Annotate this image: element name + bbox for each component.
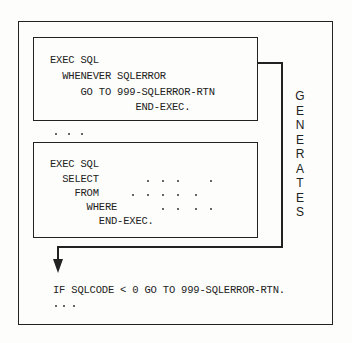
connector-line <box>281 62 283 248</box>
label-letter: E <box>293 191 307 206</box>
box1-line-2: WHENEVER SQLERROR <box>50 70 166 83</box>
label-letter: R <box>293 147 307 162</box>
box1-line-4: END-EXEC. <box>50 101 190 114</box>
box2-line-5: END-EXEC. <box>50 215 154 228</box>
placeholder-dot <box>177 194 179 196</box>
placeholder-dot <box>162 208 164 210</box>
label-letter: T <box>293 176 307 191</box>
box1-line-3: GO TO 999-SQLERROR-RTN <box>50 86 215 99</box>
label-letter: E <box>293 133 307 148</box>
placeholder-dot <box>210 208 212 210</box>
label-letter: G <box>293 89 307 104</box>
placeholder-dot <box>162 180 164 182</box>
ellipsis-dot <box>81 133 83 135</box>
placeholder-dot <box>195 208 197 210</box>
label-letter: S <box>293 205 307 220</box>
generated-code-line: IF SQLCODE < 0 GO TO 999-SQLERROR-RTN. <box>53 284 285 297</box>
placeholder-dot <box>162 194 164 196</box>
ellipsis-dot <box>73 305 75 307</box>
placeholder-dot <box>147 194 149 196</box>
label-letter: A <box>293 162 307 177</box>
placeholder-dot <box>132 194 134 196</box>
connector-line <box>257 62 282 64</box>
box2-line-2: SELECT <box>50 173 99 186</box>
ellipsis-dot <box>55 133 57 135</box>
placeholder-dot <box>210 180 212 182</box>
box2-line-4: WHERE <box>50 201 117 214</box>
ellipsis-dot <box>55 305 57 307</box>
connector-line <box>57 246 59 260</box>
box1-line-1: EXEC SQL <box>50 54 99 67</box>
placeholder-dot <box>147 180 149 182</box>
placeholder-dot <box>195 194 197 196</box>
ellipsis-dot <box>68 133 70 135</box>
diagram-canvas: EXEC SQL WHENEVER SQLERROR GO TO 999-SQL… <box>0 0 352 343</box>
placeholder-dot <box>177 208 179 210</box>
box2-line-3: FROM <box>50 187 99 200</box>
box2-line-1: EXEC SQL <box>50 158 99 171</box>
ellipsis-dot <box>63 305 65 307</box>
generates-label: G E N E R A T E S <box>293 89 307 220</box>
label-letter: E <box>293 104 307 119</box>
placeholder-dot <box>177 180 179 182</box>
label-letter: N <box>293 118 307 133</box>
connector-line <box>57 246 283 248</box>
arrow-down-icon <box>53 259 63 273</box>
